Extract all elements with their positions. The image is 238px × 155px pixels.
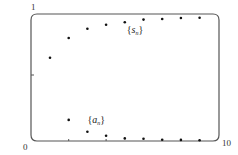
x-max-label: 10 — [222, 138, 232, 148]
sequence-chart: 1 0 10 {sn}{an} — [0, 0, 238, 155]
y-max-label: 1 — [31, 2, 36, 12]
data-point — [180, 17, 183, 20]
data-point — [49, 57, 52, 60]
data-point — [67, 37, 70, 40]
data-point — [161, 138, 164, 141]
data-point — [86, 131, 89, 134]
series-label-a-n: {an} — [87, 114, 105, 126]
data-point — [142, 138, 145, 141]
data-point — [105, 134, 108, 137]
data-point — [161, 18, 164, 21]
series-labels: {sn}{an} — [87, 24, 143, 126]
data-point — [124, 137, 127, 140]
data-point — [105, 24, 108, 27]
x-min-label: 0 — [23, 142, 28, 152]
plot-frame — [31, 14, 219, 141]
data-point — [86, 28, 89, 31]
series-label-s-n: {sn} — [127, 24, 144, 36]
data-point — [180, 139, 183, 142]
data-point — [142, 18, 145, 21]
data-point — [67, 119, 70, 122]
data-point — [198, 16, 201, 19]
series-points — [49, 16, 201, 141]
data-point — [198, 139, 201, 142]
series-s-n — [49, 16, 201, 59]
